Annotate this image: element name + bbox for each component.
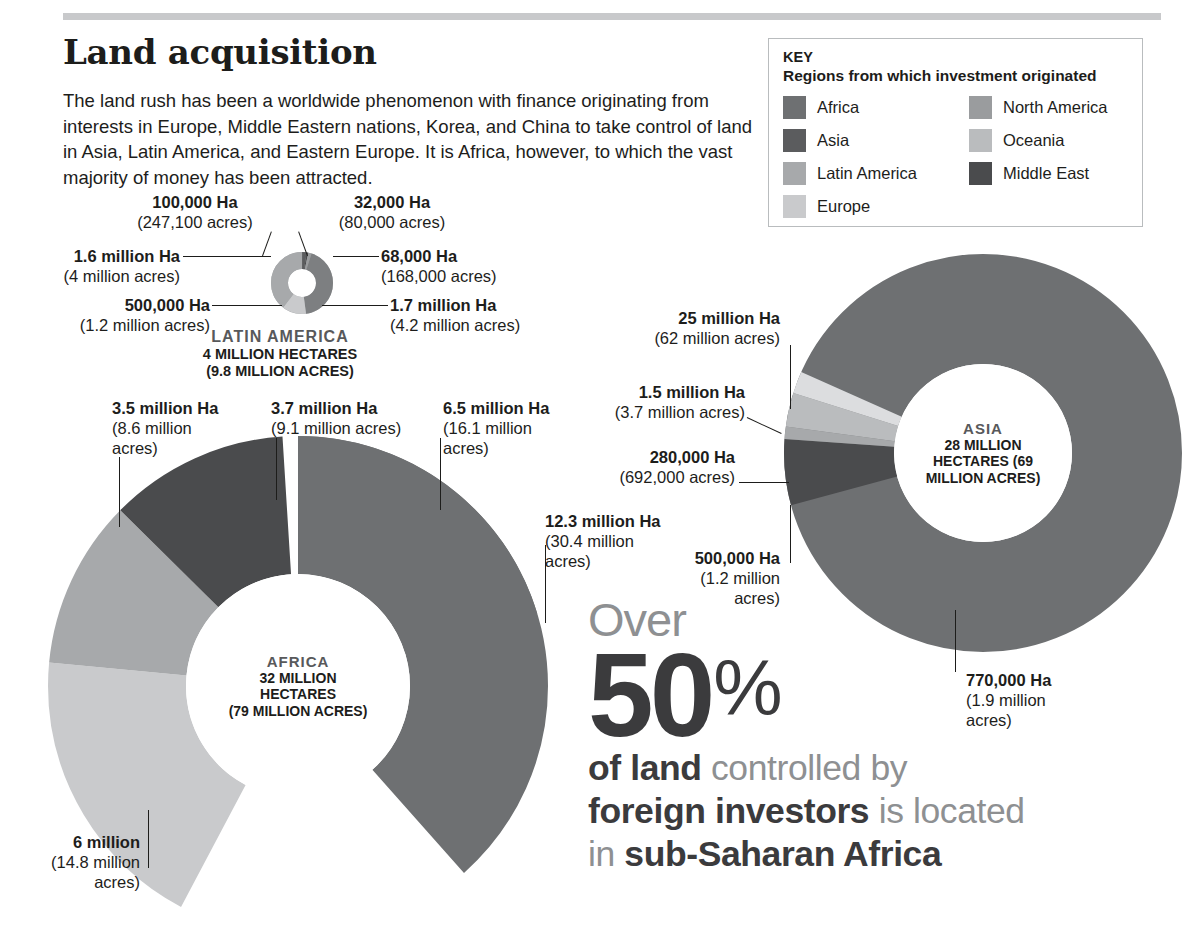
legend-label-asia: Asia	[817, 131, 849, 150]
legend-column-left: Africa Asia Latin America Europe	[783, 91, 917, 223]
as-label-500000-ha: 500,000 Ha	[645, 548, 780, 568]
as-label-15million: 1.5 million Ha (3.7 million acres)	[580, 382, 745, 422]
as-label-25million-ha: 25 million Ha	[620, 308, 780, 328]
statement-line-3: foreign investors is located	[588, 790, 1108, 833]
la-leader-500000	[212, 305, 282, 306]
as-label-25million: 25 million Ha (62 million acres)	[620, 308, 780, 348]
la-label-17million-ha: 1.7 million Ha	[390, 295, 580, 315]
legend-swatch-oceania-icon	[969, 129, 992, 152]
statement-line-4-bold: sub-Saharan Africa	[624, 834, 941, 874]
legend-subtitle: Regions from which investment originated	[783, 67, 1096, 85]
legend-label-north-america: North America	[1003, 98, 1108, 117]
latin-america-center-label: LATIN AMERICA 4 MILLION HECTARES (9.8 MI…	[170, 328, 390, 379]
legend-item-latin-america[interactable]: Latin America	[783, 157, 917, 190]
top-divider-rule	[63, 13, 1161, 20]
statement-line-2-bold: of land	[588, 748, 702, 788]
as-label-280000-ha: 280,000 Ha	[570, 447, 735, 467]
la-leader-17million	[322, 305, 388, 306]
statement-percent-row: 50%	[588, 643, 1108, 747]
af-leader-6million	[148, 810, 149, 868]
page-title: Land acquisition	[63, 32, 377, 72]
la-label-17million-acres: (4.2 million acres)	[390, 315, 580, 335]
as-label-25million-acres: (62 million acres)	[620, 328, 780, 348]
la-label-100000-acres: (247,100 acres)	[115, 212, 275, 232]
la-label-16million-ha: 1.6 million Ha	[20, 246, 180, 266]
statement-block: Over 50% of land controlled by foreign i…	[588, 596, 1108, 876]
legend-swatch-europe-icon	[783, 195, 806, 218]
as-label-15million-acres: (3.7 million acres)	[580, 402, 745, 422]
la-label-100000-ha: 100,000 Ha	[115, 192, 275, 212]
la-label-17million: 1.7 million Ha (4.2 million acres)	[390, 295, 580, 335]
legend-column-right: North America Oceania Middle East	[969, 91, 1108, 190]
la-label-32000: 32,000 Ha (80,000 acres)	[312, 192, 472, 232]
as-donut-hole	[894, 364, 1072, 542]
af-donut-hole	[186, 574, 410, 798]
la-label-68000-acres: (168,000 acres)	[381, 266, 571, 286]
af-leader-65million	[440, 438, 441, 510]
af-label-37million-acres: (9.1 million acres)	[271, 418, 461, 438]
as-label-280000: 280,000 Ha (692,000 acres)	[570, 447, 735, 487]
la-total-hectares: 4 MILLION HECTARES	[170, 346, 390, 363]
af-label-37million: 3.7 million Ha (9.1 million acres)	[271, 398, 461, 438]
legend-item-europe[interactable]: Europe	[783, 190, 917, 223]
la-label-16million-acres: (4 million acres)	[20, 266, 180, 286]
as-leader-15million	[747, 417, 782, 434]
legend-swatch-middle-east-icon	[969, 162, 992, 185]
legend-label-europe: Europe	[817, 197, 870, 216]
as-label-280000-acres: (692,000 acres)	[570, 467, 735, 487]
af-label-65million-ha: 6.5 million Ha	[443, 398, 573, 418]
asia-donut-chart: ASIA 28 MILLION HECTARES (69 MILLION ACR…	[784, 254, 1182, 652]
statement-percent-sign: %	[713, 649, 782, 727]
la-label-500000-ha: 500,000 Ha	[40, 295, 210, 315]
legend-item-north-america[interactable]: North America	[969, 91, 1108, 124]
legend-swatch-asia-icon	[783, 129, 806, 152]
af-label-35million-ha: 3.5 million Ha	[112, 398, 252, 418]
as-leader-280000	[739, 482, 789, 483]
legend-item-oceania[interactable]: Oceania	[969, 124, 1108, 157]
legend-label-africa: Africa	[817, 98, 859, 117]
legend-swatch-latin-america-icon	[783, 162, 806, 185]
af-label-35million: 3.5 million Ha (8.6 millionacres)	[112, 398, 252, 458]
la-label-16million: 1.6 million Ha (4 million acres)	[20, 246, 180, 286]
la-label-100000: 100,000 Ha (247,100 acres)	[115, 192, 275, 232]
as-leader-25million	[790, 345, 791, 409]
legend-item-middle-east[interactable]: Middle East	[969, 157, 1108, 190]
legend-title: KEY	[783, 49, 813, 65]
la-label-32000-ha: 32,000 Ha	[312, 192, 472, 212]
intro-paragraph: The land rush has been a worldwide pheno…	[63, 88, 763, 190]
af-label-123million-ha: 12.3 million Ha	[545, 511, 695, 531]
af-label-37million-ha: 3.7 million Ha	[271, 398, 461, 418]
statement-number: 50	[588, 643, 711, 747]
af-leader-35million	[119, 457, 120, 527]
legend-label-middle-east: Middle East	[1003, 164, 1089, 183]
af-label-6million-ha: 6 million	[5, 832, 140, 852]
legend-swatch-north-america-icon	[969, 96, 992, 119]
as-leader-500000	[790, 505, 791, 563]
la-leader-16million	[183, 256, 271, 257]
la-label-32000-acres: (80,000 acres)	[312, 212, 472, 232]
legend-label-latin-america: Latin America	[817, 164, 917, 183]
legend-item-asia[interactable]: Asia	[783, 124, 917, 157]
statement-line-3-rest: is located	[869, 791, 1024, 831]
la-region-name: LATIN AMERICA	[170, 328, 390, 346]
legend-swatch-africa-icon	[783, 96, 806, 119]
af-leader-37million	[276, 438, 277, 500]
statement-line-2: of land controlled by	[588, 747, 1108, 790]
legend-item-africa[interactable]: Africa	[783, 91, 917, 124]
af-label-65million: 6.5 million Ha (16.1 millionacres)	[443, 398, 573, 458]
af-label-65million-acres: (16.1 millionacres)	[443, 418, 573, 458]
statement-line-4: in sub-Saharan Africa	[588, 833, 1108, 876]
legend-label-oceania: Oceania	[1003, 131, 1064, 150]
af-label-6million-acres: (14.8 millionacres)	[5, 852, 140, 892]
la-label-68000-ha: 68,000 Ha	[381, 246, 571, 266]
as-label-15million-ha: 1.5 million Ha	[580, 382, 745, 402]
af-label-35million-acres: (8.6 millionacres)	[112, 418, 252, 458]
la-leader-68000	[333, 256, 379, 257]
la-total-acres: (9.8 MILLION ACRES)	[170, 363, 390, 380]
asia-donut-svg	[784, 254, 1182, 652]
infographic-page: Land acquisition The land rush has been …	[0, 0, 1185, 947]
statement-line-3-bold: foreign investors	[588, 791, 869, 831]
la-label-68000: 68,000 Ha (168,000 acres)	[381, 246, 571, 286]
statement-line-4-rest: in	[588, 834, 624, 874]
statement-line-2-rest: controlled by	[702, 748, 908, 788]
